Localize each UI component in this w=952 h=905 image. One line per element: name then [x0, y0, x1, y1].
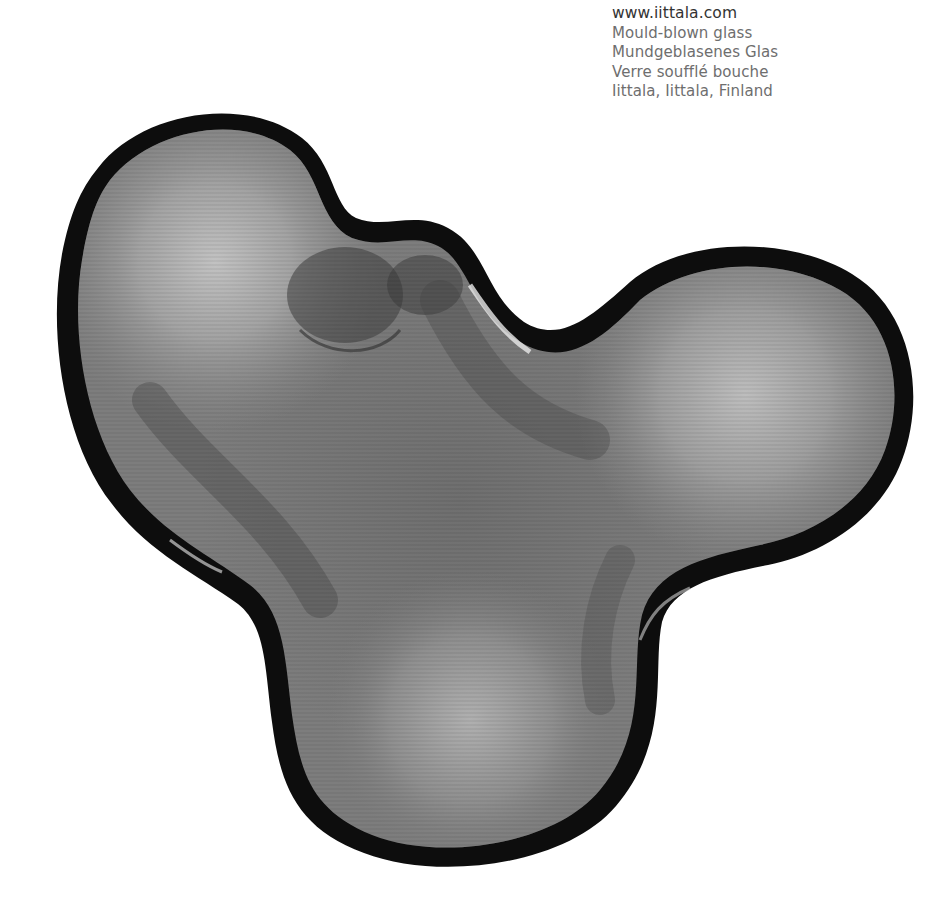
product-info: www.iittala.com Mould-blown glass Mundge…: [612, 4, 778, 102]
glass-bowl-image: [0, 0, 952, 905]
material-fr: Verre soufflé bouche: [612, 63, 778, 83]
material-de: Mundgeblasenes Glas: [612, 43, 778, 63]
origin: Iittala, Iittala, Finland: [612, 82, 778, 102]
material-en: Mould-blown glass: [612, 24, 778, 44]
website-link[interactable]: www.iittala.com: [612, 4, 778, 24]
